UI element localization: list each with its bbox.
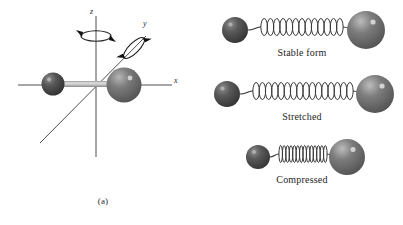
axis-label-y: y	[143, 19, 147, 28]
right-atom-stretched-highlight	[379, 83, 384, 88]
right-atom-compressed-highlight	[351, 147, 356, 152]
panel-a-drawing	[0, 0, 201, 196]
left-atom-stable-highlight	[228, 22, 232, 26]
axis-label-x: x	[174, 76, 178, 85]
spring-coil-compressed	[270, 146, 336, 163]
spring-coil-stretched	[240, 83, 365, 100]
small-atom	[42, 73, 65, 96]
right-atom-stable-highlight	[370, 19, 375, 24]
small-atom-highlight	[47, 78, 51, 82]
caption-compressed: Compressed	[201, 174, 403, 185]
large-atom-highlight	[128, 76, 133, 81]
left-atom-compressed-highlight	[252, 150, 256, 154]
panel-a-rotational-axes: z y x (a)	[0, 0, 201, 225]
spring-row-compressed	[246, 139, 365, 175]
left-atom-compressed	[246, 145, 270, 169]
right-atom-stretched	[356, 75, 394, 113]
panel-b-drawing	[201, 0, 403, 196]
spring-row-stable-form	[222, 11, 385, 49]
panel-label-a: (a)	[83, 196, 123, 206]
right-atom-compressed	[329, 139, 365, 175]
spring-row-stretched	[214, 75, 394, 113]
caption-stable-form: Stable form	[201, 47, 403, 58]
spring-coil-stable	[248, 19, 355, 36]
left-atom-stretched-highlight	[220, 86, 224, 90]
figure-root: z y x (a)	[0, 0, 403, 225]
caption-stretched: Stretched	[201, 111, 403, 122]
panel-b-spring-models: Stable form Stretched Compressed (b)	[201, 0, 403, 225]
left-atom-stretched	[214, 81, 240, 107]
right-atom-stable	[347, 11, 385, 49]
left-atom-stable	[222, 17, 248, 43]
large-atom	[107, 68, 142, 103]
axis-label-z: z	[90, 7, 93, 16]
